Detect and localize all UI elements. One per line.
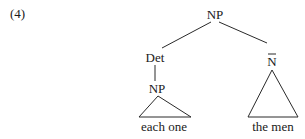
node-inner-np: NP [149,81,166,96]
leaf-each-one: each one [141,119,187,134]
triangle-the-men [248,70,298,117]
node-root-np: NP [207,7,224,22]
node-nbar: N [267,54,277,69]
leaf-the-men: the men [252,119,294,134]
syntax-tree-diagram: (4) NP Det N NP each one the men [0,0,305,139]
node-det: Det [146,50,165,65]
nbar-label: N [267,54,277,69]
edge-np-det [162,22,211,48]
triangle-each-one [139,96,191,117]
example-number: (4) [10,6,25,21]
edge-np-nbar [219,22,267,43]
